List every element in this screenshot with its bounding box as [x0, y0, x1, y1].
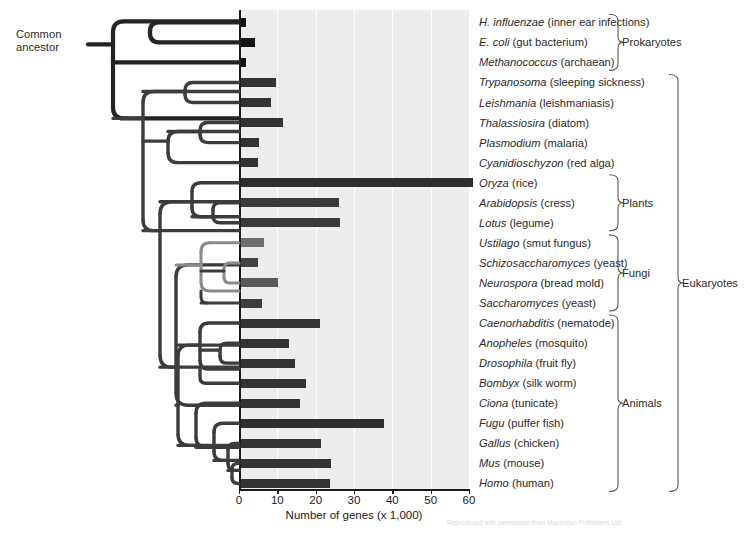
species-label: Arabidopsis (cress) [479, 197, 575, 209]
tree-branch [213, 203, 239, 210]
species-common-name: (silk worm) [519, 377, 576, 389]
tree-branch [192, 208, 239, 217]
tree-branch [185, 82, 239, 90]
tree-branch [201, 291, 207, 303]
gridline [354, 10, 355, 489]
species-genus: Bombyx [479, 377, 519, 389]
axis-tick-label: 30 [348, 494, 361, 506]
species-label: Bombyx (silk worm) [479, 377, 577, 389]
x-axis-title: Number of genes (x 1,000) [286, 509, 423, 521]
species-label: Ustilago (smut fungus) [479, 237, 591, 249]
tree-branch [232, 477, 239, 483]
species-genus: Ciona [479, 397, 508, 409]
bar [239, 238, 264, 247]
tree-branch [168, 153, 239, 163]
tree-branch [178, 434, 239, 445]
tree-branch [200, 323, 239, 332]
species-label: Drosophila (fruit fly) [479, 357, 576, 369]
bar [239, 278, 278, 287]
tree-branch [113, 107, 239, 118]
species-genus: Schizosaccharomyces [479, 257, 590, 269]
species-label: Saccharomyces (yeast) [479, 297, 596, 309]
group-bracket [609, 175, 623, 231]
tree-branch [201, 282, 239, 291]
bar [239, 459, 331, 468]
tree-branch [150, 22, 239, 31]
species-genus: Anopheles [479, 337, 532, 349]
species-label: Ciona (tunicate) [479, 397, 558, 409]
species-label: Methanococcus (archaean) [479, 56, 615, 68]
bar [239, 138, 259, 147]
common-ancestor-line2: ancestor [16, 41, 59, 53]
group-bracket [669, 74, 683, 491]
bar [239, 419, 384, 428]
figure-credit: Reproduced with permission from Macmilla… [447, 519, 737, 526]
axis-tick-label: 0 [236, 494, 242, 506]
species-label: Gallus (chicken) [479, 437, 559, 449]
tree-branch [200, 123, 239, 131]
species-label: Schizosaccharomyces (yeast) [479, 257, 628, 269]
tree-branch [196, 437, 239, 447]
species-common-name: (red alga) [564, 157, 615, 169]
species-label: Oryza (rice) [479, 177, 537, 189]
species-common-name: (fruit fly) [532, 357, 576, 369]
bar [239, 198, 339, 207]
species-label: Thalassiosira (diatom) [479, 117, 589, 129]
species-genus: E. coli [479, 36, 509, 48]
group-label: Eukaryotes [682, 277, 738, 289]
gridline [392, 10, 393, 489]
group-label: Prokaryotes [622, 36, 682, 48]
axis-tick-label: 10 [271, 494, 284, 506]
tree-branch [228, 443, 239, 450]
bar [239, 479, 330, 488]
bar [239, 38, 255, 47]
tree-branch [224, 277, 239, 283]
tree-branch [201, 243, 239, 252]
tree-branch [224, 263, 239, 269]
bar [239, 158, 258, 167]
species-common-name: (malaria) [541, 137, 588, 149]
tree-branch [200, 135, 239, 143]
species-genus: Oryza [479, 177, 509, 189]
species-common-name: (legume) [506, 217, 553, 229]
species-label: E. coli (gut bacterium) [479, 36, 588, 48]
y-axis-line [239, 10, 241, 490]
species-common-name: (tunicate) [508, 397, 558, 409]
species-common-name: (diatom) [545, 117, 589, 129]
species-label: Trypanosoma (sleeping sickness) [479, 76, 645, 88]
tree-branch [192, 183, 239, 192]
species-genus: Trypanosoma [479, 76, 547, 88]
species-genus: Fugu [479, 417, 505, 429]
tree-branch [220, 356, 239, 363]
species-common-name: (bread mold) [537, 277, 604, 289]
species-genus: Arabidopsis [479, 197, 537, 209]
group-label: Fungi [622, 267, 650, 279]
species-common-name: (mouse) [500, 457, 544, 469]
tree-branch [200, 360, 239, 369]
species-label: Cyanidioschyzon (red alga) [479, 157, 615, 169]
tree-branch [228, 463, 239, 470]
group-bracket [609, 235, 623, 311]
species-genus: Saccharomyces [479, 297, 559, 309]
tree-branch [185, 95, 239, 103]
tree-branch [160, 202, 239, 214]
bar [239, 299, 262, 308]
species-common-name: (cress) [537, 197, 574, 209]
species-genus: Gallus [479, 437, 511, 449]
bar [239, 379, 306, 388]
bar [239, 339, 289, 348]
bar [239, 78, 276, 87]
species-common-name: (yeast) [559, 297, 596, 309]
bar [239, 178, 473, 187]
species-label: Anopheles (mosquito) [479, 337, 588, 349]
species-common-name: (human) [509, 477, 554, 489]
common-ancestor-label: Common ancestor [16, 28, 94, 54]
tree-branch [213, 216, 239, 223]
species-common-name: (mosquito) [532, 337, 588, 349]
tree-branch [232, 463, 239, 469]
species-label: Fugu (puffer fish) [479, 417, 564, 429]
tree-branch [200, 369, 239, 383]
species-genus: Lotus [479, 217, 506, 229]
species-genus: Methanococcus [479, 56, 557, 68]
tree-branch [150, 33, 239, 42]
